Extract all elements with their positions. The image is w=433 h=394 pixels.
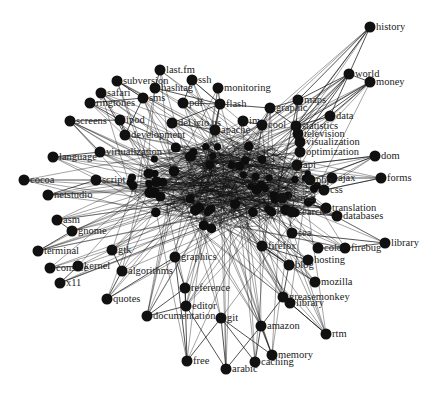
- node-dot: [117, 266, 128, 277]
- node-dot: [107, 245, 118, 256]
- node-monitoring[interactable]: monitoring: [213, 82, 272, 94]
- node-world[interactable]: world: [344, 68, 381, 80]
- core-node: [261, 184, 269, 192]
- edge: [167, 204, 168, 216]
- node-pdf[interactable]: pdf: [178, 97, 204, 109]
- node-money[interactable]: money: [365, 76, 406, 88]
- node-x11[interactable]: x11: [55, 277, 82, 289]
- node-library2[interactable]: library: [285, 297, 325, 309]
- node-graphic[interactable]: graphic: [265, 102, 308, 114]
- node-php[interactable]: php: [305, 174, 332, 186]
- node-rtm[interactable]: rtm: [321, 328, 347, 340]
- core-node: [291, 176, 298, 183]
- node-dot: [265, 103, 276, 114]
- node-label: apache: [221, 124, 250, 135]
- node-label: ssh: [198, 74, 212, 85]
- node-label: graphic: [276, 102, 308, 113]
- node-asm[interactable]: asm: [52, 214, 80, 226]
- core-node: [144, 187, 155, 198]
- node-cool[interactable]: cool: [257, 119, 287, 131]
- node-quotes[interactable]: quotes: [102, 293, 141, 305]
- node-library[interactable]: library: [380, 237, 420, 249]
- node-screens[interactable]: screens: [65, 115, 107, 127]
- node-dot: [305, 175, 316, 186]
- node-format[interactable]: format: [277, 192, 317, 204]
- node-apache[interactable]: apache: [210, 124, 251, 136]
- node-optimization[interactable]: optimization: [295, 146, 360, 158]
- node-api[interactable]: api: [292, 159, 316, 171]
- node-label: ajax: [338, 172, 356, 183]
- node-language[interactable]: language: [48, 151, 98, 163]
- node-sms[interactable]: sms: [138, 92, 166, 104]
- node-firebug[interactable]: firebug: [340, 242, 383, 254]
- node-ipod[interactable]: ipod: [115, 114, 146, 126]
- node-dom[interactable]: dom: [370, 150, 400, 162]
- node-dot: [319, 185, 330, 196]
- node-label: library: [391, 237, 420, 248]
- node-ringtones[interactable]: ringtones: [85, 97, 136, 109]
- node-dot: [85, 98, 96, 109]
- node-dot: [48, 152, 59, 163]
- node-dot: [170, 252, 181, 263]
- node-subversion[interactable]: subversion: [112, 75, 170, 87]
- node-cocoa[interactable]: cocoa: [19, 174, 55, 186]
- core-node: [209, 152, 216, 159]
- node-dot: [250, 357, 261, 368]
- node-algorithms[interactable]: algorithms: [117, 265, 173, 277]
- node-documentation[interactable]: documentation: [142, 310, 217, 322]
- node-css[interactable]: css: [319, 184, 343, 196]
- node-search[interactable]: search: [287, 206, 326, 218]
- node-dot: [155, 65, 166, 76]
- node-memory[interactable]: memory: [267, 349, 314, 361]
- node-label: graphics: [181, 251, 217, 262]
- node-forms[interactable]: forms: [376, 172, 412, 184]
- node-gnome[interactable]: gnome: [67, 225, 107, 237]
- tag-network-graph: historyworldmoneymapsgraphicdatastatisti…: [0, 0, 433, 394]
- node-dot: [376, 173, 387, 184]
- node-firefox[interactable]: firefox: [257, 240, 298, 252]
- graph-nodes: historyworldmoneymapsgraphicdatastatisti…: [19, 21, 420, 375]
- core-node: [230, 199, 240, 209]
- node-dot: [120, 130, 131, 141]
- node-translation[interactable]: translation: [321, 202, 378, 214]
- node-label: dom: [381, 150, 400, 161]
- node-hosting[interactable]: hosting: [303, 254, 346, 266]
- core-node: [248, 208, 258, 218]
- core-node: [214, 143, 221, 150]
- node-label: free: [193, 355, 210, 366]
- node-dot: [215, 99, 226, 110]
- node-netstudio[interactable]: netstudio: [43, 189, 93, 201]
- node-terminal[interactable]: terminal: [33, 245, 80, 257]
- node-mozilla[interactable]: mozilla: [310, 276, 353, 288]
- node-reference[interactable]: reference: [180, 282, 231, 294]
- node-dot: [19, 175, 30, 186]
- node-label: hosting: [314, 254, 346, 265]
- node-search2[interactable]: sea: [287, 227, 312, 239]
- core-node: [266, 174, 273, 181]
- node-label: monitoring: [224, 82, 271, 93]
- node-gtk[interactable]: gtk: [107, 244, 133, 256]
- node-label: rtm: [332, 328, 347, 339]
- node-amazon[interactable]: amazon: [256, 320, 301, 332]
- core-node: [151, 176, 162, 187]
- node-graphics[interactable]: graphics: [170, 251, 217, 263]
- core-node: [186, 194, 195, 203]
- node-dot: [313, 243, 324, 254]
- node-label: virtualization: [106, 146, 163, 157]
- core-node: [244, 142, 253, 151]
- node-dot: [138, 93, 149, 104]
- node-script[interactable]: script: [91, 174, 126, 186]
- node-label: library: [296, 297, 325, 308]
- node-label: script: [102, 174, 125, 185]
- core-node: [241, 156, 250, 165]
- node-dot: [112, 76, 123, 87]
- node-label: asm: [63, 214, 80, 225]
- node-free[interactable]: free: [182, 355, 210, 367]
- core-node: [202, 143, 209, 150]
- node-history[interactable]: history: [365, 21, 406, 33]
- node-last-fm[interactable]: last.fm: [155, 64, 195, 76]
- node-git[interactable]: git: [216, 312, 239, 324]
- node-flash[interactable]: flash: [215, 98, 248, 110]
- node-kernel[interactable]: kernel: [73, 260, 111, 272]
- node-dot: [73, 261, 84, 272]
